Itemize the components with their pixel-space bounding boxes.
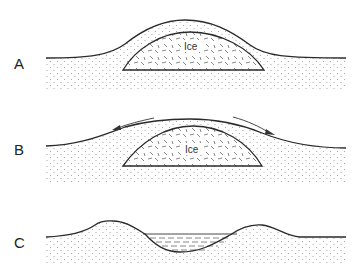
panel-label-b: B (14, 141, 24, 158)
panel-label-c: C (14, 234, 25, 251)
panel-a: A Ice (14, 20, 346, 91)
ice-label-b: Ice (185, 144, 199, 155)
panel-b: B Ice (14, 117, 346, 183)
ice-label-a: Ice (184, 41, 198, 52)
panel-c: C (14, 221, 346, 266)
diagram-canvas: A Ice B Ice C (0, 0, 363, 275)
panel-label-a: A (14, 55, 24, 72)
